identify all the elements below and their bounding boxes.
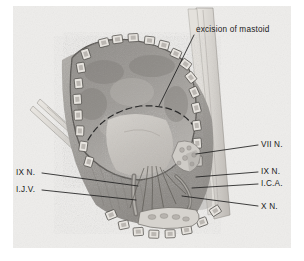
figure-plate: excision of mastoid VII N. IX N. I.C.A. …: [0, 0, 304, 261]
label-i-j-v: I.J.V.: [16, 186, 35, 194]
surgical-illustration: [0, 0, 304, 261]
label-x-n: X N.: [261, 203, 278, 211]
label-vii-n: VII N.: [261, 141, 283, 149]
label-ix-n-right: IX N.: [261, 168, 280, 176]
label-excision-of-mastoid: excision of mastoid: [196, 26, 269, 34]
label-ix-n-left: IX N.: [16, 169, 35, 177]
label-i-c-a: I.C.A.: [261, 180, 283, 188]
